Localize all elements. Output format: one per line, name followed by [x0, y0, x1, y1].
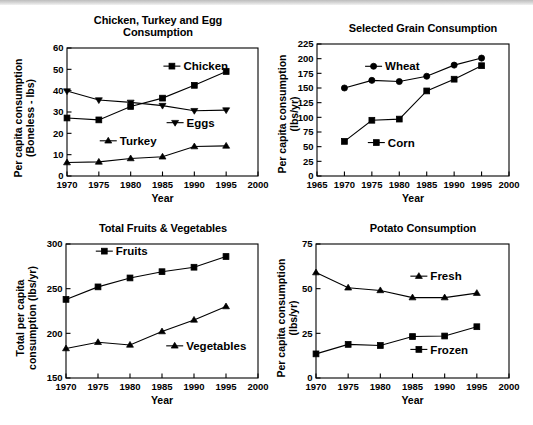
- chart-title-potato-consumption: Potato Consumption: [318, 222, 528, 234]
- data-point-marker: [409, 294, 416, 300]
- plot-area-potato-consumption: 19701975198019851990199520000255075Fresh…: [0, 0, 533, 425]
- series-frozen: Frozen: [313, 324, 480, 357]
- data-point-marker: [345, 284, 352, 290]
- data-point-marker: [313, 269, 320, 275]
- y-tick-label: 0: [307, 372, 312, 383]
- data-point-marker: [345, 342, 351, 348]
- x-tick-label: 2000: [498, 381, 519, 392]
- legend-marker-fresh: [415, 273, 422, 279]
- x-tick-label: 1980: [370, 381, 391, 392]
- data-point-marker: [441, 294, 448, 300]
- series-label-fresh: Fresh: [430, 270, 461, 282]
- chart-panel-potato-consumption: Potato ConsumptionPer capita consumption…: [0, 0, 533, 425]
- data-point-marker: [377, 287, 384, 293]
- x-tick-label: 1975: [338, 381, 360, 392]
- data-point-marker: [313, 351, 319, 357]
- series-label-frozen: Frozen: [430, 344, 468, 356]
- x-tick-label: 1990: [434, 381, 455, 392]
- series-fresh: Fresh: [313, 269, 481, 300]
- x-tick-label: 1995: [466, 381, 488, 392]
- x-tick-label: 1970: [305, 381, 326, 392]
- data-point-marker: [377, 343, 383, 349]
- data-point-marker: [442, 333, 448, 339]
- x-axis-label-potato-consumption: Year: [316, 394, 509, 406]
- legend-marker-frozen: [416, 347, 422, 353]
- data-point-marker: [474, 324, 480, 330]
- x-tick-label: 1985: [402, 381, 424, 392]
- data-point-marker: [410, 334, 416, 340]
- y-axis-label-potato-consumption: Per capita consumption (lbs/yr): [276, 243, 306, 393]
- data-point-marker: [473, 290, 480, 296]
